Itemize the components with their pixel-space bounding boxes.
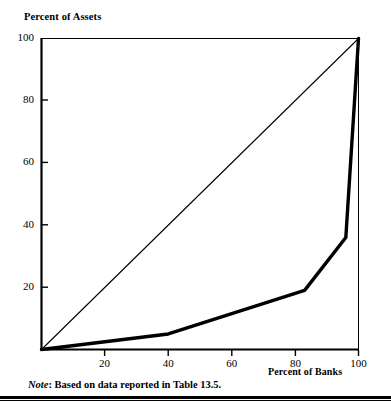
note-label: Note — [28, 379, 48, 390]
plot-canvas — [0, 0, 391, 409]
lorenz-curve-figure: Percent of Assets 100 80 60 40 — [0, 0, 391, 409]
bottom-rule-thick — [0, 396, 391, 399]
bottom-rule-thin — [0, 400, 391, 401]
y-tick-label-60: 60 — [4, 155, 34, 167]
y-tick-label-80: 80 — [4, 93, 34, 105]
figure-note: Note: Based on data reported in Table 13… — [28, 379, 221, 390]
y-tick-label-100: 100 — [4, 31, 34, 43]
series-line-of-equality — [42, 39, 359, 350]
note-body: Based on data reported in Table 13.5. — [52, 379, 221, 390]
x-tick-label-60: 60 — [212, 357, 252, 369]
x-tick-label-100: 100 — [339, 357, 379, 369]
x-axis-title: Percent of Banks — [268, 366, 342, 377]
x-axis-ticks — [105, 350, 359, 356]
y-tick-label-20: 20 — [4, 280, 34, 292]
data-series-layer — [42, 39, 359, 350]
x-tick-label-40: 40 — [148, 357, 188, 369]
x-tick-label-20: 20 — [85, 357, 125, 369]
y-tick-label-40: 40 — [4, 218, 34, 230]
